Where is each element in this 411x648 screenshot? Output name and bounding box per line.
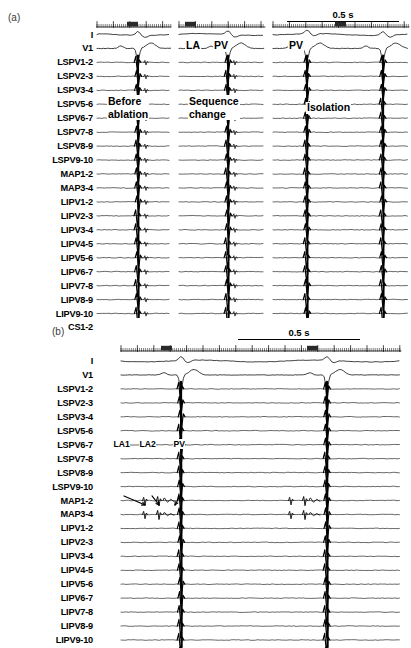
annot-line-2: ablation [108, 108, 148, 121]
annotation-la-marker: LA [185, 40, 201, 52]
electrophysiology-figure: (a) 0.5 s IV1LSPV1-2LSPV2-3LSPV3-4LSPV5-… [0, 0, 411, 648]
annotation-pv-marker-mid: PV [213, 40, 229, 52]
panel-b: (b) 0.5 s IV1LSPV1-2LSPV2-3LSPV3-4LSPV5-… [0, 322, 411, 648]
annotation-sequence-change: Sequence change [188, 95, 240, 120]
annotation-la1-marker: LA1 [113, 439, 130, 449]
annot-line-1: Sequence [189, 95, 239, 108]
pv-text: PV [289, 39, 303, 51]
annot-line-1: Before [108, 95, 148, 108]
pv-text: PV [174, 439, 185, 449]
panel-b-traces [0, 322, 411, 648]
la-text: LA [186, 39, 200, 51]
la1-text: LA1 [114, 439, 130, 449]
annot-line-2: change [189, 108, 239, 121]
la2-text: LA2 [140, 439, 156, 449]
panel-a-traces [0, 0, 411, 318]
annotation-pv-marker: PV [173, 439, 185, 449]
annotation-la2-marker: LA2 [139, 439, 156, 449]
annotation-before-ablation: Before ablation [107, 95, 149, 120]
annotation-pv-marker-right: PV [288, 40, 304, 52]
panel-a: (a) 0.5 s IV1LSPV1-2LSPV2-3LSPV3-4LSPV5-… [0, 0, 411, 318]
pv-text: PV [214, 39, 228, 51]
annotation-isolation: Isolation [306, 102, 351, 114]
annot-line-1: Isolation [307, 102, 350, 114]
